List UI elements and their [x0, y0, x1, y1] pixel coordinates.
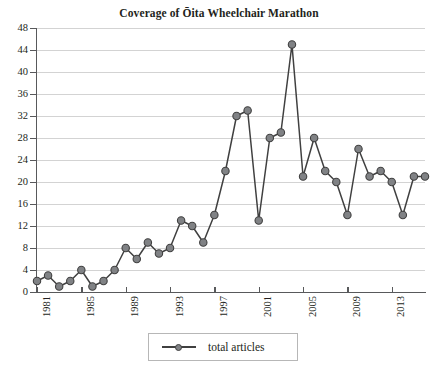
data-point-marker: [166, 244, 173, 251]
x-axis-tick-label: 2005: [308, 296, 319, 317]
y-axis-tick: [30, 116, 36, 117]
x-axis-tick: [303, 287, 304, 293]
legend-line-marker-icon: [162, 341, 196, 353]
x-axis-tick: [347, 287, 348, 293]
data-point-marker: [344, 211, 351, 218]
data-point-marker: [299, 173, 306, 180]
chart-legend: total articles: [148, 333, 298, 361]
data-point-marker: [111, 266, 118, 273]
x-axis-tick: [170, 287, 171, 293]
y-axis-tick: [30, 28, 36, 29]
data-point-marker: [233, 112, 240, 119]
data-point-marker: [333, 178, 340, 185]
x-axis-tick: [81, 287, 82, 293]
chart-figure: Coverage of Ōita Wheelchair Marathon 048…: [0, 0, 438, 374]
y-axis-tick: [30, 292, 36, 293]
y-axis-tick: [30, 226, 36, 227]
x-axis-tick-label: 1981: [42, 296, 53, 317]
y-axis-tick: [30, 138, 36, 139]
data-point-marker: [421, 173, 428, 180]
series-line: [37, 45, 425, 287]
data-point-marker: [33, 277, 40, 284]
legend-item-label: total articles: [208, 341, 265, 353]
y-axis-tick: [30, 248, 36, 249]
data-point-marker: [399, 211, 406, 218]
data-point-marker: [211, 211, 218, 218]
data-point-marker: [288, 41, 295, 48]
x-axis-tick-label: 1997: [219, 296, 230, 317]
y-axis-tick: [30, 50, 36, 51]
data-point-marker: [377, 167, 384, 174]
y-axis-tick: [30, 204, 36, 205]
data-point-marker: [133, 255, 140, 262]
x-axis-tick-label: 2009: [352, 296, 363, 317]
data-point-marker: [122, 244, 129, 251]
data-point-marker: [78, 266, 85, 273]
data-point-marker: [200, 239, 207, 246]
y-axis-tick: [30, 270, 36, 271]
y-axis-tick: [30, 94, 36, 95]
data-point-marker: [55, 283, 62, 290]
y-axis-tick: [30, 160, 36, 161]
data-point-marker: [255, 217, 262, 224]
data-point-marker: [189, 222, 196, 229]
data-point-marker: [155, 250, 162, 257]
data-point-marker: [89, 283, 96, 290]
series-layer: [0, 0, 438, 374]
y-axis-tick: [30, 182, 36, 183]
data-point-marker: [67, 277, 74, 284]
data-point-marker: [410, 173, 417, 180]
data-point-marker: [44, 272, 51, 279]
y-axis-tick: [30, 72, 36, 73]
x-axis-tick: [259, 287, 260, 293]
data-point-marker: [177, 217, 184, 224]
data-point-marker: [222, 167, 229, 174]
data-point-marker: [244, 107, 251, 114]
x-axis-tick-label: 1985: [86, 296, 97, 317]
data-point-marker: [355, 145, 362, 152]
x-axis-tick: [37, 287, 38, 293]
x-axis-tick: [126, 287, 127, 293]
x-axis-tick-label: 2013: [396, 296, 407, 317]
data-point-marker: [277, 129, 284, 136]
x-axis-tick: [214, 287, 215, 293]
legend-item-total-articles: total articles: [149, 334, 299, 360]
data-point-marker: [266, 134, 273, 141]
data-point-marker: [388, 178, 395, 185]
x-axis-tick: [392, 287, 393, 293]
data-point-marker: [366, 173, 373, 180]
x-axis-tick-label: 2001: [263, 296, 274, 317]
data-point-marker: [100, 277, 107, 284]
data-point-marker: [144, 239, 151, 246]
data-point-marker: [322, 167, 329, 174]
data-point-marker: [310, 134, 317, 141]
x-axis-tick-label: 1993: [175, 296, 186, 317]
x-axis-tick-label: 1989: [130, 296, 141, 317]
